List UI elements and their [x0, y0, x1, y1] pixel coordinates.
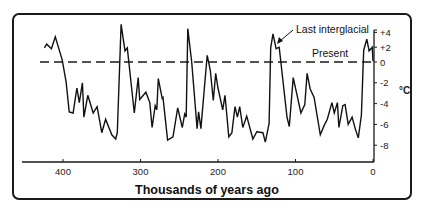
y-axis-unit: °C: [399, 85, 410, 96]
y-tick-label: -4: [380, 98, 388, 109]
y-axis-ticks: +4+20-2-4-6-8: [374, 27, 391, 151]
last-interglacial-label: Last interglacial: [296, 23, 369, 35]
x-tick-label: 300: [133, 166, 149, 177]
present-label: Present: [312, 47, 348, 59]
y-tick-label: -2: [380, 77, 388, 88]
y-tick-label: +2: [380, 42, 391, 53]
y-tick-label: -8: [380, 140, 388, 151]
temperature-series-line: [44, 24, 373, 142]
x-tick-label: 200: [210, 166, 226, 177]
y-tick-label: -6: [380, 119, 388, 130]
x-tick-label: 0: [370, 166, 375, 177]
x-axis-title: Thousands of years ago: [135, 183, 279, 197]
temperature-chart: 4003002001000 +4+20-2-4-6-8 °C Present L…: [0, 0, 426, 216]
x-tick-label: 100: [288, 166, 304, 177]
y-tick-label: 0: [380, 57, 385, 68]
x-tick-label: 400: [55, 166, 71, 177]
annotation-arrow-line: [280, 30, 293, 41]
y-tick-label: +4: [380, 27, 391, 38]
annotation-arrow-head-icon: [277, 37, 283, 44]
